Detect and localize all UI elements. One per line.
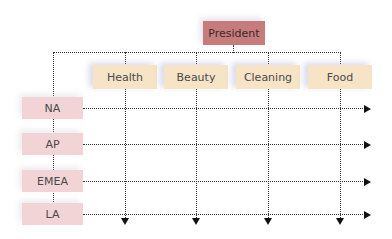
- row-node-emea: EMEA: [22, 170, 83, 192]
- row-line-emea: [83, 181, 365, 182]
- top-horizontal-connector: [53, 52, 341, 53]
- column-node-beauty: Beauty: [164, 65, 228, 89]
- arrow-right-icon: [364, 141, 371, 149]
- row-node-la: LA: [22, 203, 83, 225]
- column-node-cleaning: Cleaning: [236, 65, 300, 89]
- row-node-ap: AP: [22, 133, 83, 155]
- column-node-food: Food: [308, 65, 372, 89]
- column-node-health: Health: [93, 65, 157, 89]
- arrow-right-icon: [364, 105, 371, 113]
- row-line-na: [83, 108, 365, 109]
- arrow-right-icon: [364, 178, 371, 186]
- president-node: President: [203, 21, 265, 45]
- row-line-la: [83, 214, 365, 215]
- arrow-down-icon: [336, 218, 344, 225]
- row-node-na: NA: [22, 97, 83, 119]
- arrow-down-icon: [264, 218, 272, 225]
- row-line-ap: [83, 144, 365, 145]
- arrow-down-icon: [121, 218, 129, 225]
- arrow-down-icon: [192, 218, 200, 225]
- arrow-right-icon: [364, 211, 371, 219]
